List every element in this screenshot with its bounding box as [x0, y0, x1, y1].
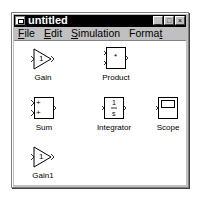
gain1-value: 1 — [39, 153, 43, 161]
block-gain1[interactable]: 1 — [31, 146, 55, 168]
block-gain[interactable]: 1 — [31, 48, 55, 70]
menu-edit[interactable]: Edit — [44, 27, 62, 39]
scope-label: Scope — [157, 123, 180, 132]
menu-file[interactable]: File — [18, 27, 35, 39]
block-sum[interactable]: + + — [31, 97, 57, 121]
integrator-denominator: s — [112, 110, 116, 118]
sum-sign-1: + — [36, 99, 41, 107]
block-scope[interactable] — [156, 97, 180, 121]
minimize-icon: _ — [156, 17, 160, 24]
product-symbol: * — [114, 53, 117, 61]
title-bar[interactable]: untitled _ □ × — [14, 15, 186, 27]
block-product[interactable]: * — [104, 47, 128, 71]
sum-ports-icon — [31, 97, 57, 121]
scope-port-icon — [156, 97, 180, 121]
close-button[interactable]: × — [175, 16, 185, 25]
menu-bar: File Edit Simulation Format — [14, 27, 186, 39]
gain-value: 1 — [39, 55, 43, 63]
gain1-label: Gain1 — [32, 171, 53, 180]
sum-label: Sum — [36, 123, 52, 132]
product-label: Product — [102, 73, 130, 82]
minimize-button[interactable]: _ — [153, 16, 163, 25]
integrator-label: Integrator — [97, 123, 131, 132]
window-title: untitled — [28, 14, 68, 27]
integrator-numerator: 1 — [112, 99, 116, 107]
menu-simulation[interactable]: Simulation — [71, 27, 120, 39]
maximize-icon: □ — [167, 17, 171, 24]
close-icon: × — [178, 17, 182, 24]
maximize-button[interactable]: □ — [164, 16, 174, 25]
app-icon — [15, 16, 25, 25]
block-integrator[interactable]: 1 s — [102, 97, 126, 121]
menu-format[interactable]: Format — [129, 27, 162, 39]
sum-sign-2: + — [36, 109, 41, 117]
model-window: untitled _ □ × File Edit Simulation Form… — [11, 12, 189, 188]
gain-label: Gain — [35, 73, 52, 82]
diagram-canvas[interactable]: 1 Gain * Product + + Sum — [14, 40, 186, 185]
